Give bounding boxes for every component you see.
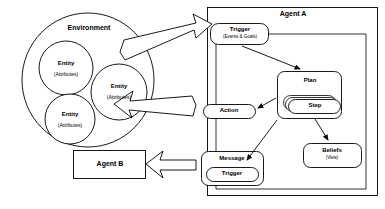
action-box[interactable] bbox=[204, 105, 256, 119]
message-to-agent-b-arrow bbox=[146, 151, 196, 178]
message-trigger-box[interactable] bbox=[207, 168, 259, 182]
entity-circle-2 bbox=[91, 64, 147, 120]
diagram-vector-layer bbox=[0, 0, 385, 209]
entity-circle-3 bbox=[45, 94, 95, 144]
trigger-box[interactable] bbox=[211, 24, 269, 45]
diagram-canvas: Environment Entity (Attributes) Entity (… bbox=[0, 0, 385, 209]
agent-b-box[interactable] bbox=[74, 151, 146, 179]
beliefs-box[interactable] bbox=[304, 144, 362, 168]
entity-circle-1 bbox=[39, 41, 93, 95]
action-to-environment-arrow bbox=[114, 91, 196, 118]
step-box[interactable] bbox=[289, 100, 341, 114]
